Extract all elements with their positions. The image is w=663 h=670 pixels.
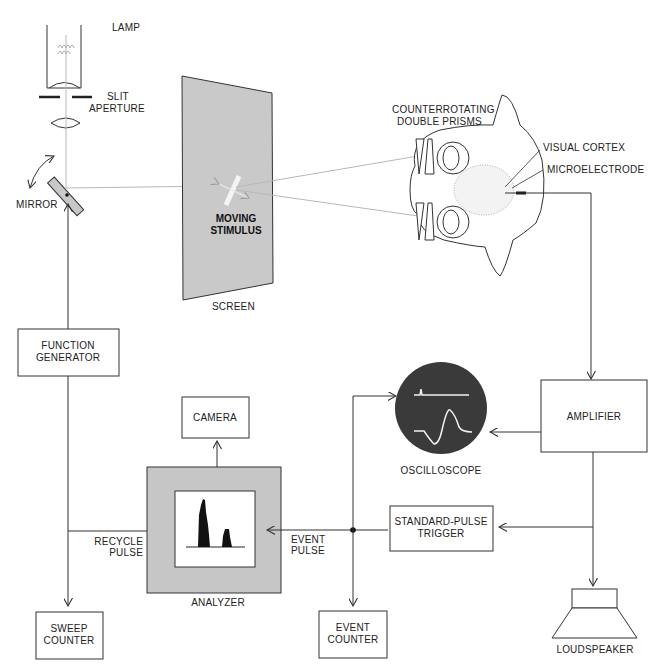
event-pulse-label-2: PULSE <box>291 545 325 556</box>
screen-label: SCREEN <box>212 301 255 312</box>
visual-cortex <box>454 165 514 215</box>
function-generator-label-2: GENERATOR <box>36 352 100 363</box>
event-counter-label-2: COUNTER <box>328 634 379 645</box>
event-pulse-label-1: EVENT <box>291 534 325 545</box>
prisms-label-1: COUNTERROTATING <box>392 104 495 115</box>
oscilloscope-label: OSCILLOSCOPE <box>401 465 482 476</box>
prisms-label-2: DOUBLE PRISMS <box>397 116 482 127</box>
recycle-label-2: PULSE <box>109 547 143 558</box>
amplifier-label: AMPLIFIER <box>567 411 622 422</box>
trigger-label-2: TRIGGER <box>418 528 465 539</box>
aperture-label: APERTURE <box>89 103 145 114</box>
loudspeaker-label: LOUDSPEAKER <box>556 644 633 655</box>
visual-cortex-label: VISUAL CORTEX <box>543 142 625 153</box>
slit-label: SLIT <box>107 91 129 102</box>
loudspeaker[interactable] <box>552 589 637 638</box>
sweep-counter-label-1: SWEEP <box>50 623 87 634</box>
analyzer-display <box>175 491 255 567</box>
microelectrode-label: MICROELECTRODE <box>547 164 644 175</box>
trigger-label-1: STANDARD-PULSE <box>394 516 487 527</box>
moving-label: MOVING <box>216 213 257 224</box>
experimental-setup-diagram: LAMP SLIT APERTURE MIRROR SCREEN MOVING … <box>0 0 663 670</box>
lamp-label: LAMP <box>112 22 140 33</box>
event-counter-label-1: EVENT <box>336 622 370 633</box>
analyzer-label: ANALYZER <box>191 597 245 608</box>
camera-label: CAMERA <box>193 412 237 423</box>
function-generator-label-1: FUNCTION <box>41 340 94 351</box>
lamp <box>47 25 81 88</box>
mirror-label: MIRROR <box>16 199 58 210</box>
sweep-counter-label-2: COUNTER <box>44 635 95 646</box>
recycle-label-1: RECYCLE <box>94 536 143 547</box>
stimulus-label: STIMULUS <box>210 225 261 236</box>
oscilloscope[interactable] <box>395 362 487 454</box>
